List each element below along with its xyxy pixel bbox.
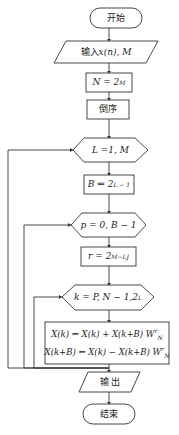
start-label: 开始 (90, 8, 142, 28)
n-left: N = 2 (92, 78, 119, 87)
butterfly-label: X(k) ⇐ X(k) + X(k+B) WrN X(k+B) ⇐ X(k) −… (45, 322, 169, 364)
r-sup: M−L (111, 254, 126, 260)
loopK-label: k = P, N − 1,2L (62, 285, 154, 310)
output-label: 输 出 (82, 372, 138, 392)
end-label: 结束 (83, 404, 135, 424)
input-label: 输入 x (n) , M (56, 41, 156, 63)
loopL-label: L =1, M (73, 138, 148, 162)
b-left: B ⇐ 2 (88, 180, 114, 189)
loopP-label: p = 0, B − 1 (71, 213, 146, 237)
butterfly-line-1: X(k) ⇐ X(k) + X(k+B) WrN (51, 325, 163, 343)
reorder-label: 倒序 (87, 100, 129, 119)
b-label: B ⇐ 2L − 1 (84, 175, 134, 194)
k-sup: L (138, 295, 142, 301)
input-m: , M (116, 48, 131, 57)
r-right: J (127, 254, 129, 260)
n-sup: M (119, 80, 125, 86)
r-label: r = 2M−LJ (81, 247, 136, 266)
butterfly-line-2: X(k+B) ⇐ X(k) − X(k+B) WrN (45, 343, 170, 361)
input-prefix: 输入 (81, 48, 99, 57)
k-left: k = P, N − 1,2 (74, 293, 138, 302)
n-label: N = 2M (86, 73, 132, 92)
input-n: (n) (104, 48, 117, 57)
r-left: r = 2 (88, 252, 111, 261)
b-sup: L − 1 (113, 182, 130, 188)
